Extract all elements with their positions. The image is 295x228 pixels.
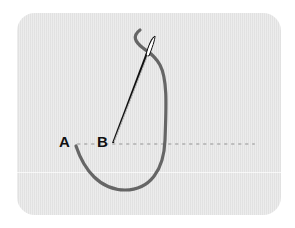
point-b-label: B	[97, 134, 108, 149]
thread-icon	[76, 30, 166, 190]
point-a-label: A	[59, 134, 70, 149]
needle-icon	[112, 36, 155, 143]
stitch-diagram	[0, 0, 295, 228]
